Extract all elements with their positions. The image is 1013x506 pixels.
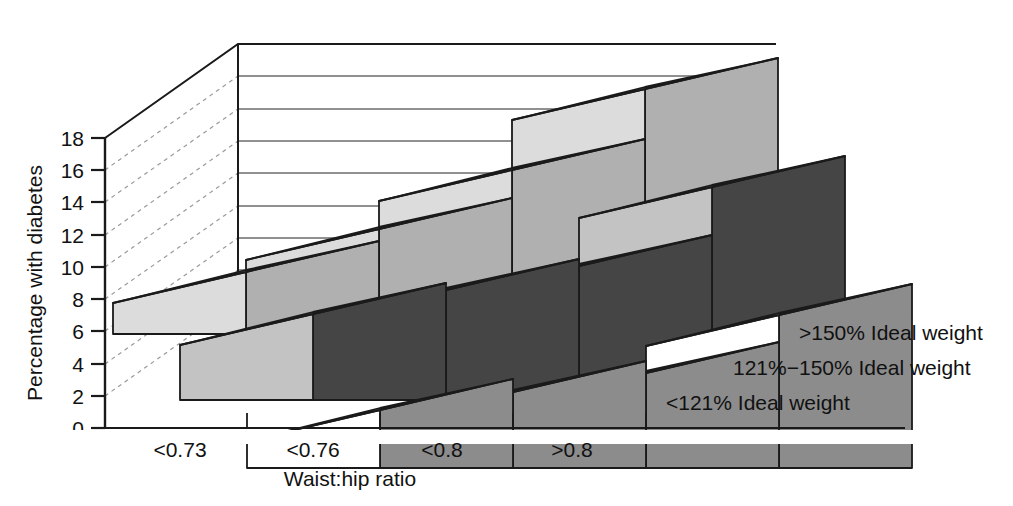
y-tick-label-10: 10 [61,256,84,279]
y-tick-label-14: 14 [61,191,85,214]
legend-item-gt150: >150% Ideal weight [799,321,983,344]
y-tick-label-2: 2 [72,385,84,408]
x-category-label-1: <0.76 [286,438,339,461]
y-axis-title: Percentage with diabetes [23,165,46,401]
y-axis: 0 2 4 6 8 10 12 14 16 18 Percentage with… [23,127,105,440]
legend-item-lt121: <121% Ideal weight [666,391,850,414]
three-d-bar-chart: 0 2 4 6 8 10 12 14 16 18 Percentage with… [0,0,1013,506]
chart-canvas: 0 2 4 6 8 10 12 14 16 18 Percentage with… [0,0,1013,506]
x-category-label-0: <0.73 [153,438,206,461]
x-category-label-3: >0.8 [551,438,592,461]
y-tick-label-16: 16 [61,159,84,182]
y-tick-label-12: 12 [61,224,84,247]
x-axis-title: Waist:hip ratio [284,467,416,490]
y-tick-label-4: 4 [72,353,84,376]
y-tick-label-8: 8 [72,288,84,311]
legend-item-121to150: 121%−150% Ideal weight [733,356,971,379]
y-tick-label-18: 18 [61,127,84,150]
x-category-label-2: <0.8 [421,438,462,461]
y-tick-label-6: 6 [72,320,84,343]
